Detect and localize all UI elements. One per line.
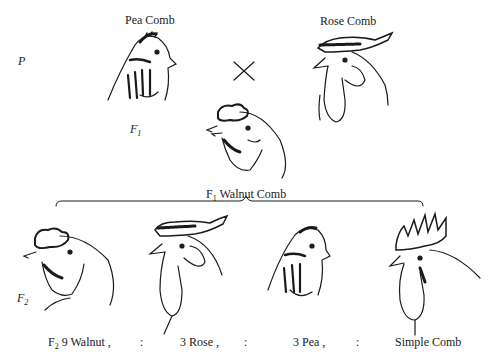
f2-pea-comb-rooster-illustration [268, 228, 330, 296]
f1-walnut-comb-hen-illustration [207, 104, 286, 178]
f2-walnut-comb-hen-illustration [24, 228, 114, 310]
f2-bracket [56, 196, 423, 206]
rose-comb-rooster-illustration [314, 33, 392, 122]
pea-comb-rooster-illustration [108, 32, 176, 100]
f2-single-comb-rooster-illustration [390, 214, 480, 335]
comb-inheritance-illustration [0, 0, 494, 361]
cross-icon [234, 62, 254, 80]
f2-rose-comb-rooster-illustration [150, 216, 227, 334]
